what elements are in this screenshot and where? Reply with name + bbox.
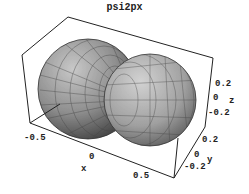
- y-tick-label: 0.2: [202, 136, 218, 145]
- z-axis-label: z: [229, 97, 234, 106]
- y-tick-label: 0: [194, 151, 199, 160]
- y-tick-label: -0.2: [184, 163, 206, 172]
- x-tick-label: 0.5: [133, 172, 149, 181]
- x-axis-label: x: [81, 165, 86, 174]
- z-tick-label: 0: [213, 94, 218, 103]
- z-tick-label: 0.2: [215, 80, 231, 89]
- y-axis-label: y: [207, 156, 212, 165]
- x-tick-label: 0: [89, 153, 94, 162]
- x-tick-label: -0.5: [24, 134, 46, 143]
- z-tick-label: -0.2: [208, 109, 230, 118]
- plot-figure: psi2px: [0, 0, 249, 194]
